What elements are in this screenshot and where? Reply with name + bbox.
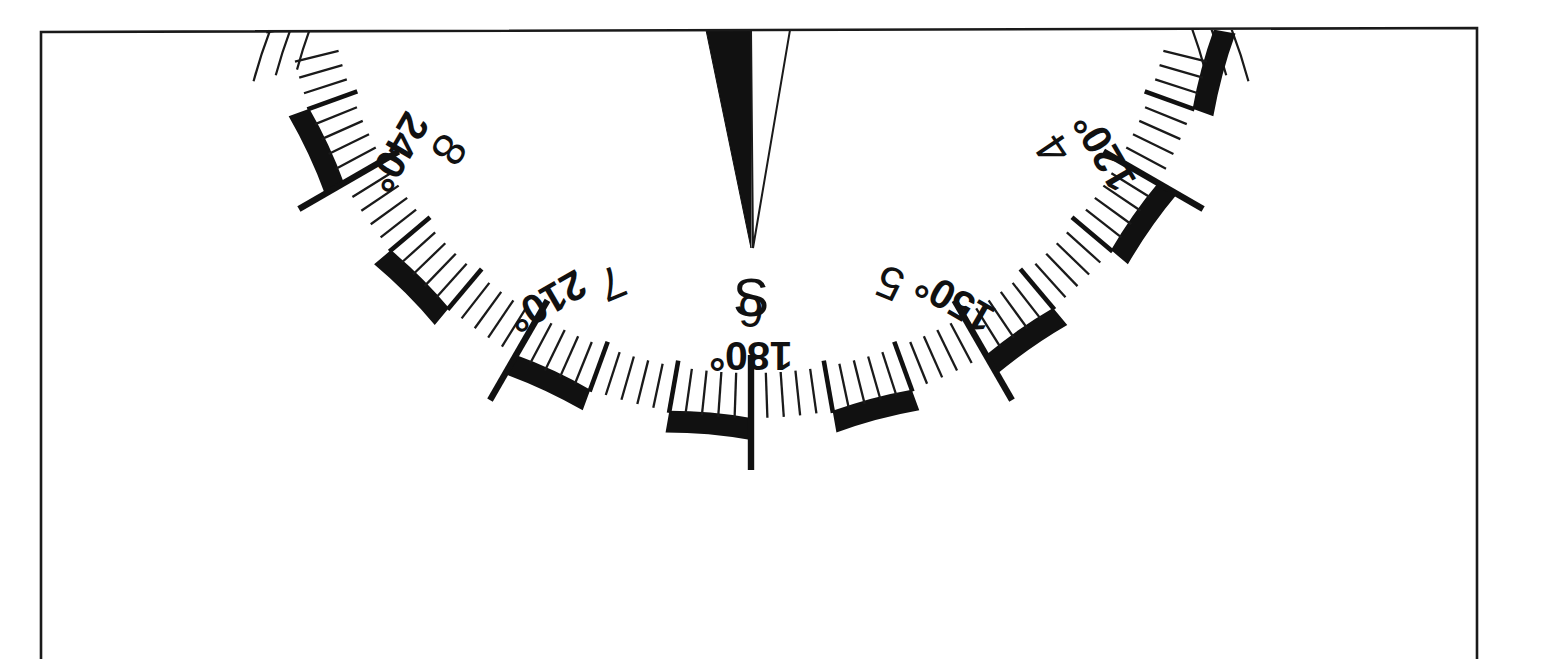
compass-illustration: S120°150°180°210°240°45678 120° 150° 180… [0,0,1552,659]
point-label-6: 6 [738,285,764,337]
compass-rose-svg: S120°150°180°210°240°45678 [0,0,1552,659]
degree-label-180: 180° [710,333,793,379]
point-label-group: 6 [738,285,764,337]
degree-label-group: 180° [710,333,793,379]
